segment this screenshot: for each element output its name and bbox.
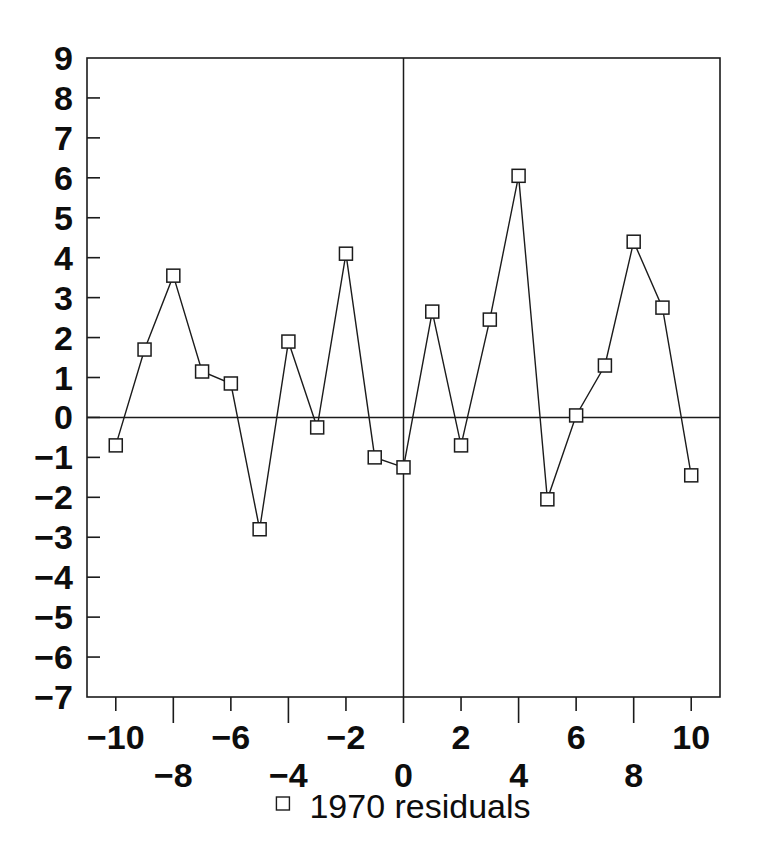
y-tick-label: −7 xyxy=(34,678,73,716)
y-axis-tick-labels: 9876543210−1−2−3−4−5−6−7 xyxy=(34,39,73,716)
y-tick-label: −1 xyxy=(34,438,73,476)
y-tick-label: −2 xyxy=(34,478,73,516)
data-point-marker xyxy=(656,301,669,314)
y-tick-label: −3 xyxy=(34,518,73,556)
data-point-marker xyxy=(368,451,381,464)
chart-legend: 1970 residuals xyxy=(276,787,530,825)
x-tick-label: −8 xyxy=(154,756,193,794)
data-point-marker xyxy=(455,439,468,452)
reference-lines xyxy=(87,58,720,697)
y-tick-label: 8 xyxy=(54,79,73,117)
data-point-marker xyxy=(483,313,496,326)
x-tick-label: −10 xyxy=(87,718,145,756)
data-point-marker xyxy=(426,305,439,318)
data-point-marker xyxy=(598,359,611,372)
residuals-line-chart: 9876543210−1−2−3−4−5−6−7 −10−8−6−4−20246… xyxy=(0,0,758,861)
y-tick-label: −6 xyxy=(34,638,73,676)
x-tick-label: 2 xyxy=(452,718,471,756)
data-point-marker xyxy=(627,235,640,248)
data-point-marker xyxy=(397,461,410,474)
data-point-marker xyxy=(196,365,209,378)
data-point-marker xyxy=(339,247,352,260)
x-tick-label: −2 xyxy=(327,718,366,756)
y-tick-label: 5 xyxy=(54,199,73,237)
y-tick-label: −5 xyxy=(34,598,73,636)
y-tick-label: 0 xyxy=(54,398,73,436)
data-point-marker xyxy=(512,169,525,182)
y-tick-label: 4 xyxy=(54,239,73,277)
data-point-marker xyxy=(167,269,180,282)
x-tick-label: 10 xyxy=(672,718,710,756)
x-tick-label: 8 xyxy=(624,756,643,794)
x-axis-tick-labels: −10−8−6−4−20246810 xyxy=(87,718,710,794)
x-tick-label: −6 xyxy=(211,718,250,756)
data-point-marker xyxy=(109,439,122,452)
data-point-marker xyxy=(541,493,554,506)
y-tick-label: 7 xyxy=(54,119,73,157)
y-axis-ticks xyxy=(87,98,100,657)
y-tick-label: −4 xyxy=(34,558,73,596)
x-axis-ticks xyxy=(116,697,691,723)
data-point-marker xyxy=(253,523,266,536)
data-point-marker xyxy=(224,377,237,390)
open-square-marker xyxy=(276,797,289,810)
y-tick-label: 3 xyxy=(54,279,73,317)
y-tick-label: 9 xyxy=(54,39,73,77)
legend-entry-label: 1970 residuals xyxy=(309,787,530,825)
data-point-marker xyxy=(311,421,324,434)
y-tick-label: 6 xyxy=(54,159,73,197)
data-point-marker xyxy=(685,469,698,482)
data-point-marker xyxy=(570,409,583,422)
data-point-marker xyxy=(138,343,151,356)
x-tick-label: −4 xyxy=(269,756,308,794)
data-point-marker xyxy=(282,335,295,348)
y-tick-label: 1 xyxy=(54,359,73,397)
y-tick-label: 2 xyxy=(54,319,73,357)
x-tick-label: 6 xyxy=(567,718,586,756)
chart-figure: 9876543210−1−2−3−4−5−6−7 −10−8−6−4−20246… xyxy=(0,0,758,861)
